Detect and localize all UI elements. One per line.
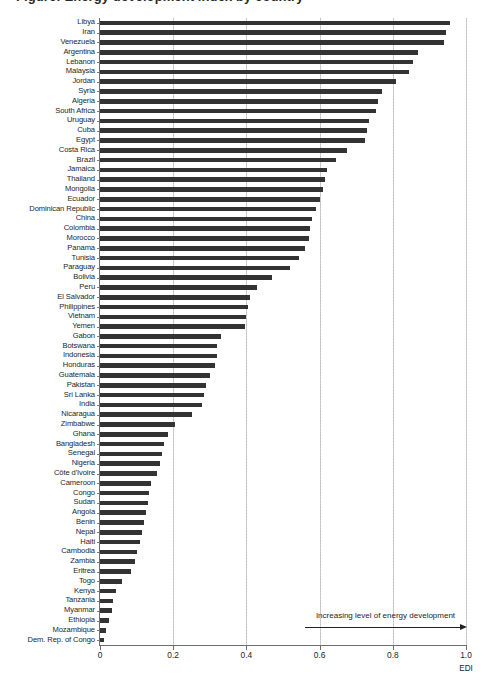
y-tick-mark bbox=[97, 62, 100, 63]
energy-development-index-chart: Figure: Energy development index by coun… bbox=[0, 0, 491, 689]
bar bbox=[100, 168, 327, 173]
y-tick-mark bbox=[97, 180, 100, 181]
y-tick-mark bbox=[97, 542, 100, 543]
y-tick-mark bbox=[97, 297, 100, 298]
category-label: Sudan bbox=[74, 498, 95, 507]
bar bbox=[100, 89, 382, 94]
bar bbox=[100, 344, 217, 349]
y-tick-mark bbox=[97, 483, 100, 484]
bar bbox=[100, 432, 168, 437]
category-label: Libya bbox=[77, 18, 95, 27]
annotation-arrow-shaft bbox=[305, 627, 462, 628]
y-tick-mark bbox=[97, 209, 100, 210]
bar bbox=[100, 501, 148, 506]
category-label: Peru bbox=[79, 283, 95, 292]
category-label: Senegal bbox=[68, 449, 95, 458]
category-label: Lebanon bbox=[66, 58, 95, 67]
category-label: Guatemala bbox=[59, 371, 95, 380]
bar bbox=[100, 363, 215, 368]
category-label: Cameroon bbox=[60, 479, 95, 488]
y-tick-mark bbox=[97, 82, 100, 83]
y-tick-mark bbox=[97, 523, 100, 524]
plot-area bbox=[100, 18, 466, 645]
bar bbox=[100, 354, 217, 359]
y-tick-mark bbox=[97, 405, 100, 406]
bar bbox=[100, 138, 365, 143]
category-label: Dem. Rep. of Congo bbox=[28, 636, 95, 645]
bar bbox=[100, 315, 246, 320]
bar bbox=[100, 305, 248, 310]
category-label: Ecuador bbox=[67, 195, 95, 204]
category-label: China bbox=[76, 214, 95, 223]
category-label: Panama bbox=[67, 244, 95, 253]
bar bbox=[100, 21, 450, 26]
category-label: Argentina bbox=[63, 48, 95, 57]
bar bbox=[100, 177, 325, 182]
y-tick-mark bbox=[97, 630, 100, 631]
bar bbox=[100, 608, 112, 613]
bar bbox=[100, 471, 157, 476]
category-label: Ethiopia bbox=[68, 616, 95, 625]
gridline-1 bbox=[466, 18, 467, 645]
y-tick-mark bbox=[97, 434, 100, 435]
y-tick-mark bbox=[97, 425, 100, 426]
category-label: Uruguay bbox=[67, 116, 95, 125]
y-tick-mark bbox=[97, 385, 100, 386]
category-label: Nepal bbox=[76, 528, 95, 537]
category-label: Zambia bbox=[70, 557, 95, 566]
category-label: Vietnam bbox=[68, 312, 95, 321]
x-tick-mark bbox=[100, 646, 101, 650]
y-tick-mark bbox=[97, 121, 100, 122]
y-tick-mark bbox=[97, 464, 100, 465]
bar bbox=[100, 70, 409, 75]
bar bbox=[100, 579, 122, 584]
y-tick-mark bbox=[97, 42, 100, 43]
y-tick-mark bbox=[97, 131, 100, 132]
increasing-level-annotation: Increasing level of energy development bbox=[303, 611, 468, 639]
y-tick-mark bbox=[97, 248, 100, 249]
y-tick-mark bbox=[97, 532, 100, 533]
x-tick-label: 0 bbox=[98, 650, 103, 660]
category-label: Haiti bbox=[80, 538, 95, 547]
bar bbox=[100, 491, 149, 496]
bar bbox=[100, 589, 116, 594]
category-axis-labels: LibyaIranVenezuelaArgentinaLebanonMalays… bbox=[0, 18, 95, 645]
y-tick-mark bbox=[97, 327, 100, 328]
figure-title-text: Figure: Energy development index by coun… bbox=[16, 0, 303, 4]
x-tick-label: 1.0 bbox=[460, 650, 472, 660]
x-tick-label: 0.6 bbox=[314, 650, 326, 660]
category-label: Togo bbox=[79, 577, 95, 586]
gridline-0.8 bbox=[393, 18, 394, 645]
bar bbox=[100, 481, 151, 486]
category-label: Costa Rica bbox=[59, 146, 95, 155]
y-tick-mark bbox=[97, 513, 100, 514]
bar bbox=[100, 383, 206, 388]
y-tick-mark bbox=[97, 268, 100, 269]
category-label: Venezuela bbox=[60, 38, 95, 47]
y-tick-mark bbox=[97, 140, 100, 141]
y-tick-mark bbox=[97, 258, 100, 259]
y-tick-mark bbox=[97, 101, 100, 102]
bar bbox=[100, 530, 142, 535]
category-label: El Salvador bbox=[57, 293, 95, 302]
bar bbox=[100, 40, 444, 45]
bar bbox=[100, 226, 310, 231]
y-tick-mark bbox=[97, 474, 100, 475]
y-tick-mark bbox=[97, 356, 100, 357]
bar bbox=[100, 256, 299, 261]
bar bbox=[100, 275, 272, 280]
category-label: Mozambique bbox=[53, 626, 95, 635]
category-label: Yemen bbox=[72, 322, 95, 331]
bar bbox=[100, 412, 192, 417]
category-label: Philippines bbox=[59, 303, 95, 312]
category-label: Cuba bbox=[77, 126, 95, 135]
category-label: Congo bbox=[73, 489, 95, 498]
bar bbox=[100, 373, 210, 378]
y-tick-mark bbox=[97, 611, 100, 612]
y-tick-mark bbox=[97, 52, 100, 53]
y-tick-mark bbox=[97, 238, 100, 239]
x-axis-title: EDI bbox=[459, 664, 473, 673]
y-tick-mark bbox=[97, 454, 100, 455]
y-tick-mark bbox=[97, 591, 100, 592]
y-tick-mark bbox=[97, 23, 100, 24]
